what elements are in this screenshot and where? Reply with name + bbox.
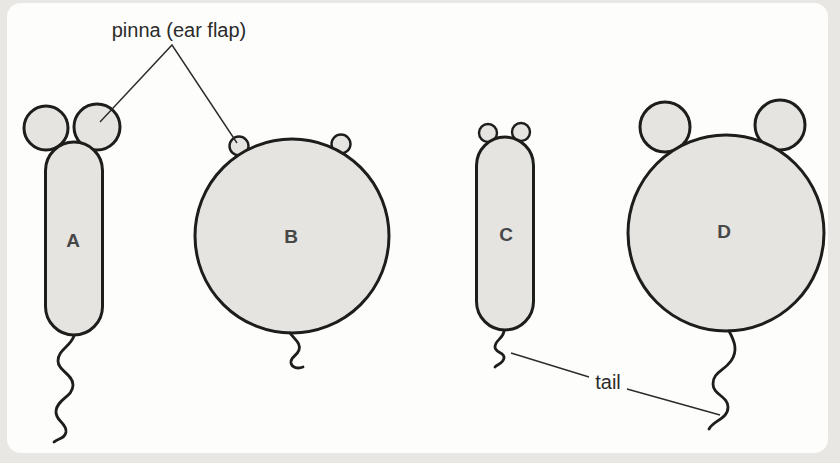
organism-a-label: A bbox=[66, 230, 80, 251]
organism-a-tail bbox=[54, 336, 74, 442]
diagram-svg: A B C D pinna (ear fl bbox=[0, 0, 840, 463]
organism-b: B bbox=[195, 135, 389, 368]
organism-b-tail bbox=[290, 333, 303, 368]
tail-annotation: tail bbox=[511, 353, 720, 415]
organism-c-label: C bbox=[499, 224, 513, 245]
pinna-annotation-text: pinna (ear flap) bbox=[112, 19, 247, 41]
organism-c: C bbox=[477, 123, 534, 367]
organism-a: A bbox=[24, 104, 120, 442]
page-background: A B C D pinna (ear fl bbox=[0, 0, 840, 463]
pinna-annotation: pinna (ear flap) bbox=[100, 19, 246, 143]
tail-leader-line-left bbox=[511, 353, 589, 377]
organism-b-label: B bbox=[284, 226, 298, 247]
tail-leader-line-right bbox=[627, 389, 720, 415]
tail-annotation-text: tail bbox=[595, 371, 621, 393]
organism-c-tail bbox=[495, 331, 504, 367]
organism-d: D bbox=[628, 100, 824, 429]
organism-d-label: D bbox=[717, 221, 731, 242]
organism-d-tail bbox=[709, 331, 735, 429]
